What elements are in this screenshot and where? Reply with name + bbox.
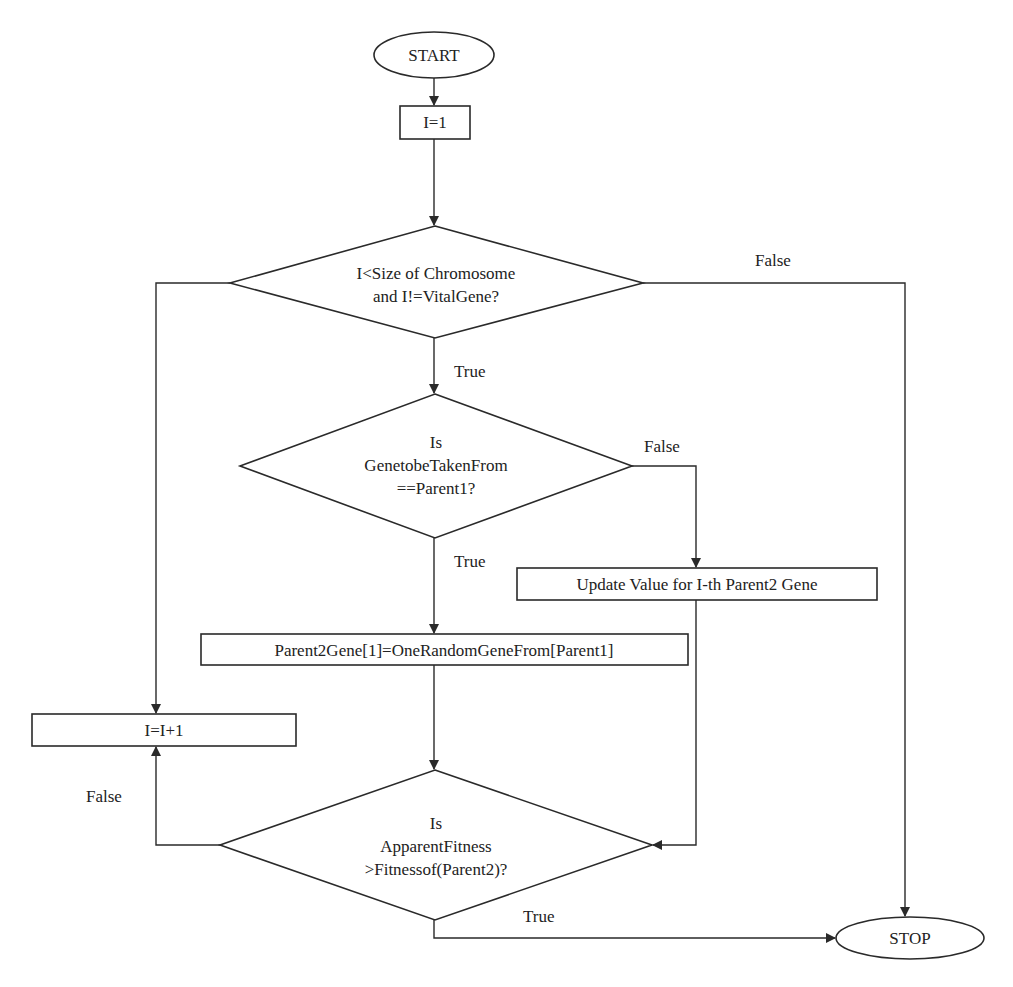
update-node: Update Value for I-th Parent2 Gene — [517, 568, 877, 600]
increment-label: I=I+1 — [145, 721, 184, 740]
decision-gene-source: Is GenetobeTakenFrom ==Parent1? — [240, 394, 632, 538]
stop-label: STOP — [889, 929, 930, 948]
assign-node: Parent2Gene[1]=OneRandomGeneFrom[Parent1… — [201, 634, 688, 665]
cond1-true-label: True — [454, 362, 486, 381]
decision1-line1: I<Size of Chromosome — [357, 264, 516, 283]
decision3-line1: Is — [430, 814, 442, 833]
edge-cond3-stop — [434, 920, 835, 938]
stop-node: STOP — [836, 917, 984, 959]
decision-fitness: Is ApparentFitness >Fitnessof(Parent2)? — [220, 770, 652, 920]
cond2-false-label: False — [644, 437, 680, 456]
decision2-line2: GenetobeTakenFrom — [364, 456, 507, 475]
start-label: START — [408, 46, 460, 65]
cond3-false-label: False — [86, 787, 122, 806]
start-node: START — [374, 32, 494, 78]
decision2-line3: ==Parent1? — [397, 479, 476, 498]
decision3-line2: ApparentFitness — [380, 837, 491, 856]
increment-node: I=I+1 — [32, 714, 296, 746]
cond1-false-label: False — [755, 251, 791, 270]
edge-cond2-update — [632, 466, 696, 567]
init-node: I=1 — [400, 106, 470, 139]
decision-chromosome-size: I<Size of Chromosome and I!=VitalGene? — [230, 226, 643, 338]
update-label: Update Value for I-th Parent2 Gene — [577, 575, 818, 594]
decision2-line1: Is — [430, 433, 442, 452]
decision3-line3: >Fitnessof(Parent2)? — [365, 860, 508, 879]
decision1-line2: and I!=VitalGene? — [373, 287, 499, 306]
cond3-true-label: True — [523, 907, 555, 926]
edge-cond3-increment — [156, 747, 220, 845]
init-label: I=1 — [423, 113, 447, 132]
assign-label: Parent2Gene[1]=OneRandomGeneFrom[Parent1… — [274, 641, 613, 660]
flowchart-canvas: START I=1 I<Size of Chromosome and I!=Vi… — [0, 0, 1013, 987]
cond2-true-label: True — [454, 552, 486, 571]
